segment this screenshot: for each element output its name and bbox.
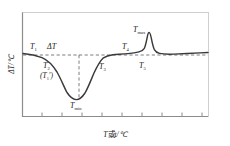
x-axis-label-post: t/℃ [115,130,127,139]
annotation-t1-sub: 1 [34,47,36,52]
x-axis-label: T或t/℃ [0,128,230,139]
annotation-delta-t: ΔT [47,43,56,51]
annotation-tmin: Tmin [70,102,82,110]
annotation-delta-t-text: ΔT [47,42,56,51]
x-axis-label-mid: 或 [108,130,115,139]
annotation-t3: T3 [99,63,106,71]
annotation-t3-sub: 3 [103,67,105,72]
annotation-tmax: Tmax [133,26,145,34]
annotation-t5-sub: 5 [143,66,145,71]
y-axis-label-text: ΔT/℃ [7,55,16,74]
annotation-t1-prime-open: (T [40,71,47,80]
annotation-t5: T5 [139,62,146,70]
annotation-t4: T4 [122,43,129,51]
annotation-tmax-sub: max [137,30,145,35]
annotation-t1-prime: (T1') [40,72,53,80]
annotation-t4-sub: 4 [126,47,128,52]
annotation-t1: T1 [30,43,37,51]
dta-plot-svg [0,0,230,146]
annotation-tmin-sub: min [74,106,81,111]
annotation-t1-prime-tail: ') [49,71,53,80]
annotation-t2: T2 [43,62,50,70]
y-axis-label: ΔT/℃ [7,42,16,88]
dta-curve-figure: ΔT/℃ T或t/℃ T1 ΔT T2 (T1') Tmin T3 T4 Tma… [0,0,230,146]
annotation-t1-prime-sub: 1 [47,76,49,81]
